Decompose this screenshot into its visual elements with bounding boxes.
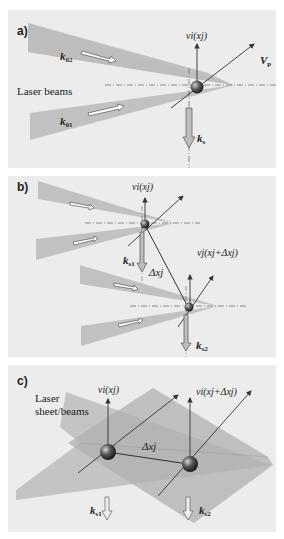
ks1-label: ks1 (90, 505, 102, 518)
panel-c: c) Laser sheet/beams vi(xj) vi(xj+Δxj) Δ… (8, 365, 276, 532)
displacement-label: Δxj (142, 441, 156, 452)
scatter-direction-arrow (183, 108, 195, 148)
panel-label-a: a) (17, 25, 28, 37)
ks-label: ks (197, 133, 205, 146)
laser-sheet-label-line1: Laser (35, 393, 59, 404)
k01-label: k01 (60, 116, 73, 129)
particle-1 (141, 220, 150, 229)
velocity-label-1: vi(xj) (132, 182, 153, 192)
displacement-label: Δxj (149, 267, 163, 278)
particle (191, 81, 204, 94)
laser-sheet-label-line2: sheet/beams (35, 406, 89, 417)
ks1-label: ks1 (123, 255, 135, 268)
velocity-label-2: vi(xj+Δxj) (196, 387, 237, 397)
velocity-label-1: vi(xj) (98, 385, 119, 395)
scatter-arrow-1 (102, 497, 112, 520)
panel-b-drawing (8, 176, 276, 357)
panel-a: a) Laser beams k02 k01 vi(xj) Vp ks (8, 10, 276, 168)
panel-label-c: c) (17, 375, 28, 387)
k02-label: k02 (60, 51, 73, 64)
panel-label-b: b) (17, 181, 28, 193)
laser-beams-position-1 (36, 181, 200, 260)
scatter-arrow-1 (137, 232, 147, 272)
panel-b: b) vi(xj) vj(xj+Δxj) Δxj ks1 ks2 (8, 176, 276, 357)
particle-1 (100, 444, 116, 460)
velocity-label: vi(xj) (186, 31, 207, 41)
ks2-label: ks2 (196, 340, 208, 353)
particle-2 (185, 303, 194, 312)
velocity-label-2: vj(xj+Δxj) (197, 248, 238, 258)
laser-beams-label: Laser beams (17, 86, 72, 97)
ks2-label: ks2 (199, 505, 211, 518)
vp-label: Vp (260, 55, 271, 68)
particle-2 (182, 456, 198, 472)
